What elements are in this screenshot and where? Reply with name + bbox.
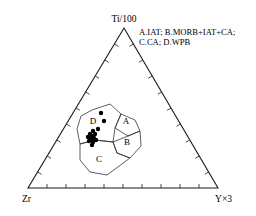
axis-ticks-right: [129, 44, 208, 174]
data-point: [99, 111, 103, 115]
data-point: [87, 139, 91, 143]
legend: A.IAT; B.MORB+IAT+CA; C.CA; D.WPB: [139, 27, 235, 47]
vertex-label-bottom-left: Zr: [22, 194, 32, 204]
data-point: [102, 119, 106, 123]
field-label-a: A: [123, 116, 130, 126]
data-point: [90, 143, 94, 147]
triangle-axes: [28, 28, 218, 188]
legend-line-1: A.IAT; B.MORB+IAT+CA;: [139, 27, 235, 37]
axis-tick-right: [205, 172, 209, 174]
data-point: [96, 127, 100, 131]
axis-tick-right: [186, 140, 190, 142]
axis-tick-right: [139, 60, 143, 62]
field-polygon-d: [77, 104, 121, 144]
axis-ticks-left: [38, 44, 119, 174]
axis-tick-left: [66, 124, 70, 126]
field-label-b: B: [124, 137, 130, 147]
axis-tick-left: [38, 172, 42, 174]
ternary-diagram-figure: A B C D Ti/100 Zr Y×3 A.IAT; B.MORB+IAT+…: [0, 0, 256, 216]
data-point: [93, 132, 97, 136]
legend-line-2: C.CA; D.WPB: [139, 37, 191, 47]
axis-tick-right: [129, 44, 133, 46]
axis-tick-left: [95, 76, 99, 78]
vertex-label-bottom-right: Y×3: [215, 194, 232, 204]
field-polygon-c: [80, 140, 130, 175]
axis-tick-left: [76, 108, 80, 110]
axis-tick-right: [167, 108, 171, 110]
vertex-label-top: Ti/100: [112, 14, 137, 24]
data-point: [94, 138, 98, 142]
axis-tick-left: [114, 44, 118, 46]
ternary-plot-canvas: A B C D Ti/100 Zr Y×3 A.IAT; B.MORB+IAT+…: [0, 0, 256, 216]
axis-tick-left: [57, 140, 61, 142]
axis-tick-right: [176, 124, 180, 126]
axis-tick-right: [195, 156, 199, 158]
axis-tick-right: [158, 92, 162, 94]
axis-tick-left: [105, 60, 109, 62]
axis-tick-left: [86, 92, 90, 94]
axis-tick-left: [47, 156, 51, 158]
discrimination-fields: [77, 104, 141, 175]
triangle-outline: [28, 28, 218, 188]
axis-ticks-bottom: [47, 184, 199, 188]
field-label-c: C: [96, 154, 102, 164]
axis-tick-right: [148, 76, 152, 78]
field-label-d: D: [90, 116, 97, 126]
